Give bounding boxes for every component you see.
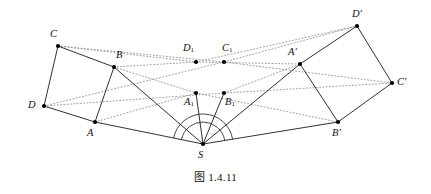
point-marker-Ap: [298, 62, 302, 66]
edge-Ap-Dp: [300, 26, 357, 64]
figure-caption: 图 1.4.11: [0, 168, 431, 184]
point-label-Ap: A′: [288, 47, 297, 58]
edge-Dp-Cp: [357, 26, 392, 83]
point-marker-B: [112, 65, 116, 69]
dotted-D1-Ap: [196, 62, 300, 64]
point-marker-Cp: [390, 81, 394, 85]
dotted-B1-Cp: [224, 83, 392, 93]
dotted-B-D1: [114, 62, 196, 67]
ray-S-Ap: [203, 64, 300, 144]
edge-Bp-Ap: [300, 64, 338, 122]
point-label-S: S: [198, 150, 203, 161]
dotted-C-D1-Dp: [58, 26, 357, 62]
edge-C-B: [58, 46, 114, 67]
point-marker-Dp: [355, 24, 359, 28]
geometry-canvas: [0, 0, 431, 194]
point-label-B1: B1: [225, 97, 235, 108]
point-label-C: C: [50, 29, 57, 40]
point-label-Cp: C′: [397, 77, 406, 88]
ray-S-Bp: [203, 122, 338, 144]
dotted-D-C1-Cp: [44, 62, 392, 106]
point-label-B: B: [116, 50, 122, 61]
point-marker-D1: [194, 60, 198, 64]
point-label-Dp: D′: [352, 9, 362, 20]
ray-S-A: [95, 122, 203, 144]
point-label-C1: C1: [222, 43, 233, 54]
point-marker-Bp: [336, 120, 340, 124]
point-marker-C: [56, 44, 60, 48]
ray-S-A1: [196, 93, 203, 144]
edge-D-C: [44, 46, 58, 106]
edge-Cp-Bp: [338, 83, 392, 122]
point-label-D: D: [28, 100, 36, 111]
dotted-B-A1: [114, 67, 196, 93]
point-label-A: A: [87, 128, 93, 139]
edge-B-A: [95, 67, 114, 122]
edge-A-D: [44, 106, 95, 122]
point-marker-A: [93, 120, 97, 124]
geometry-figure: CBDASA1B1D1C1A′D′C′B′ 图 1.4.11: [0, 0, 431, 194]
point-label-A1: A1: [184, 97, 194, 108]
dotted-B1-Ap: [224, 64, 300, 93]
point-label-Bp: B′: [332, 128, 341, 139]
point-marker-B1: [222, 91, 226, 95]
dotted-A-A1: [95, 93, 196, 122]
point-marker-C1: [222, 60, 226, 64]
ray-S-B1: [203, 93, 224, 144]
point-marker-D: [42, 104, 46, 108]
point-marker-A1: [194, 91, 198, 95]
dotted-C-C1: [58, 46, 224, 62]
point-marker-S: [201, 142, 205, 146]
point-label-D1: D1: [183, 43, 194, 54]
